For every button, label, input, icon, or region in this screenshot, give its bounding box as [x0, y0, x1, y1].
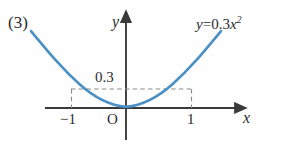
x-axis-label: x [243, 110, 250, 126]
x-tick-label-positive-one: 1 [187, 112, 195, 127]
equation-lhs: y [196, 16, 203, 32]
parabola-figure: (3) y x O −1 1 0.3 y=0.3x2 [0, 0, 286, 142]
origin-label: O [107, 112, 118, 127]
curve-equation-label: y=0.3x2 [196, 17, 242, 32]
x-tick-label-negative-one: −1 [60, 112, 76, 127]
item-number-label: (3) [8, 14, 28, 31]
y-axis-label: y [112, 14, 119, 30]
equation-equals: = [203, 16, 211, 32]
y-value-label-point-three: 0.3 [95, 70, 114, 85]
equation-coefficient: 0.3 [211, 16, 230, 32]
equation-exponent: 2 [237, 14, 242, 25]
equation-variable: x [230, 16, 237, 32]
